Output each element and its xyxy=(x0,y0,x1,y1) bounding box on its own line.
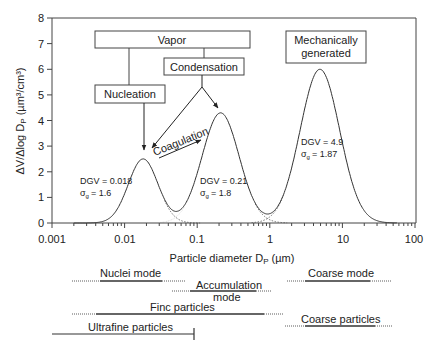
y-tick-label: 3 xyxy=(38,140,44,152)
vapor-label: Vapor xyxy=(158,34,187,46)
coarse-sigma: σg= 1.87 xyxy=(301,149,337,160)
y-tick-label: 7 xyxy=(38,38,44,50)
x-tick-label: 0.001 xyxy=(38,233,66,245)
y-axis-ticks xyxy=(47,18,52,223)
x-axis-tick-labels: 0.001 0.01 0.1 1 10 100 xyxy=(38,233,423,245)
nuclei-mode-label: Nuclei mode xyxy=(100,267,161,279)
y-tick-label: 6 xyxy=(38,63,44,75)
condensation-arrow-right xyxy=(202,87,218,108)
generated-label: generated xyxy=(301,47,351,59)
y-tick-label: 5 xyxy=(38,89,44,101)
nuclei-mode-tail xyxy=(161,187,200,223)
x-axis-label: Particle diameter DP (µm) xyxy=(170,252,295,266)
coarse-dgv: DGV = 4.9 xyxy=(301,137,343,147)
y-axis-label: ΔV/Δlog DP (µm³/cm³) xyxy=(14,67,28,174)
x-tick-label: 1 xyxy=(267,233,273,245)
x-tick-label: 0.01 xyxy=(114,233,135,245)
chart: 0 1 2 3 4 5 6 7 8 0.001 0.01 0.1 1 10 10… xyxy=(0,0,437,348)
x-tick-label: 100 xyxy=(405,233,423,245)
y-tick-label: 2 xyxy=(38,166,44,178)
mechanically-label: Mechanically xyxy=(294,34,358,46)
y-axis-tick-labels: 0 1 2 3 4 5 6 7 8 xyxy=(38,12,44,229)
x-tick-label: 10 xyxy=(337,233,349,245)
y-tick-label: 4 xyxy=(38,115,44,127)
y-tick-label: 0 xyxy=(38,217,44,229)
nucleation-label: Nucleation xyxy=(104,88,156,100)
nuclei-dgv: DGV = 0.018 xyxy=(80,176,132,186)
accumulation-label: Accumulation xyxy=(196,279,262,291)
nuclei-sigma: σg= 1.6 xyxy=(80,188,111,199)
y-tick-label: 1 xyxy=(38,191,44,203)
condensation-label: Condensation xyxy=(170,61,238,73)
accumulation-dgv: DGV = 0.21 xyxy=(200,176,247,186)
accumulation-mode-label: mode xyxy=(213,291,241,303)
coarse-mode-label: Coarse mode xyxy=(308,267,374,279)
ultrafine-particles-label: Ultrafine particles xyxy=(88,321,173,333)
x-tick-label: 0.1 xyxy=(189,233,204,245)
y-tick-label: 8 xyxy=(38,12,44,24)
fine-particles-label: Finc particles xyxy=(150,301,215,313)
accumulation-sigma: σg= 1.8 xyxy=(200,188,231,199)
coagulation-label: Coagulation xyxy=(151,125,210,158)
x-axis-ticks xyxy=(52,223,415,228)
coarse-particles-label: Coarse particles xyxy=(301,313,381,325)
